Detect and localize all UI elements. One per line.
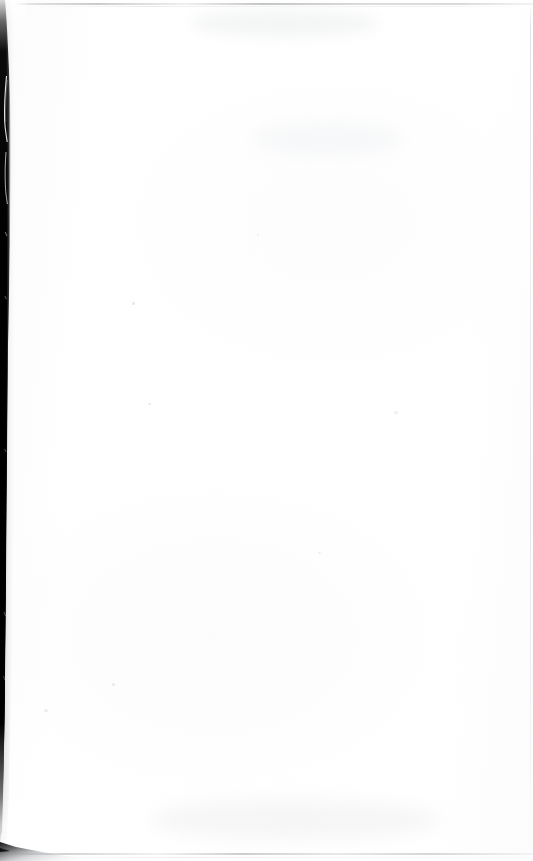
page-body-text xyxy=(46,40,486,810)
paper-smudge-top xyxy=(190,10,380,36)
paper-surface xyxy=(0,0,533,861)
scanned-page xyxy=(0,0,533,861)
